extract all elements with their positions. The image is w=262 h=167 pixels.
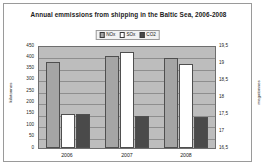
x-axis-label-2006: 2006 <box>47 152 87 158</box>
bar-sox-2007 <box>120 52 134 148</box>
x-axis-label-2008: 2008 <box>166 152 206 158</box>
bar-co2-2006 <box>76 114 90 148</box>
y-axis-left-tick-50: 50 <box>18 133 34 138</box>
bar-sox-2008 <box>179 64 193 148</box>
bar-group-2008 <box>156 47 215 148</box>
x-axis-label-2007: 2007 <box>107 152 147 158</box>
y-axis-right-tick-195: 19,5 <box>219 43 237 48</box>
bar-co2-2008 <box>194 117 208 148</box>
legend-label-sox: SOx <box>126 32 135 37</box>
legend-item-nox: NOx <box>99 32 115 38</box>
y-axis-left-tick-0: 0 <box>18 145 34 150</box>
chart-title: Annual emmissions from shipping in the B… <box>4 11 253 18</box>
y-axis-right-tick-175: 17,5 <box>219 111 237 116</box>
bar-sox-2006 <box>61 114 75 148</box>
bar-nox-2008 <box>164 58 178 148</box>
y-axis-left-tick-350: 350 <box>18 65 34 70</box>
y-axis-right-tick-17: 17 <box>219 128 237 133</box>
y-axis-right-tick-185: 18,5 <box>219 77 237 82</box>
y-axis-left-tick-450: 450 <box>18 43 34 48</box>
plot-area <box>38 46 216 149</box>
bar-group-2006 <box>39 47 98 148</box>
chart-legend: NOx SOx CO2 <box>95 30 160 40</box>
bar-series-container <box>39 47 215 148</box>
legend-swatch-co2-icon <box>139 32 145 38</box>
y-axis-left-tick-400: 400 <box>18 54 34 59</box>
bar-nox-2007 <box>105 56 119 148</box>
y-axis-left-tick-150: 150 <box>18 110 34 115</box>
y-axis-right-title: megatonnes <box>256 70 258 116</box>
y-axis-left-tick-100: 100 <box>18 122 34 127</box>
legend-swatch-nox-icon <box>99 32 105 38</box>
y-axis-left-tick-200: 200 <box>18 99 34 104</box>
legend-label-nox: NOx <box>106 32 115 37</box>
bar-nox-2006 <box>46 62 60 148</box>
bar-co2-2007 <box>135 116 149 148</box>
y-axis-right-tick-165: 16,5 <box>219 145 237 150</box>
legend-item-sox: SOx <box>119 32 135 38</box>
legend-label-co2: CO2 <box>146 32 155 37</box>
y-axis-left-tick-250: 250 <box>18 88 34 93</box>
y-axis-right-tick-19: 19 <box>219 60 237 65</box>
y-axis-left-title: kilotonnes <box>8 70 13 116</box>
legend-item-co2: CO2 <box>139 32 155 38</box>
chart-frame: Annual emmissions from shipping in the B… <box>3 3 252 162</box>
legend-swatch-sox-icon <box>119 32 125 38</box>
bar-group-2007 <box>98 47 157 148</box>
y-axis-left-tick-300: 300 <box>18 76 34 81</box>
y-axis-right-tick-18: 18 <box>219 94 237 99</box>
